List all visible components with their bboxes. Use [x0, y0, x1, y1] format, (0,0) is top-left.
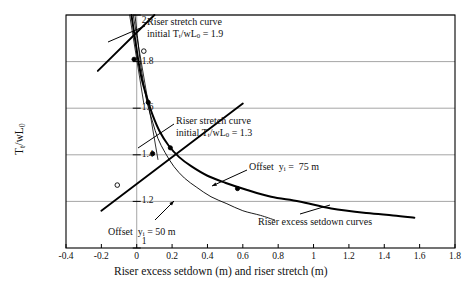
x-tick-label: 1.4 [375, 251, 393, 261]
annotation-setdown-curves: Riser excess setdown curves [258, 216, 372, 228]
x-tick-label: 0.8 [269, 251, 287, 261]
y-tick-label: 1.6 [142, 102, 154, 112]
data-marker [132, 57, 136, 61]
annotation-offset-75-text: Offset yi = 75 m [249, 161, 319, 172]
leader-line [108, 26, 145, 42]
data-marker [235, 186, 239, 190]
annotation-offset-75: Offset yi = 75 m [249, 161, 319, 175]
x-tick-label: 0.2 [163, 251, 181, 261]
plot-frame [66, 15, 455, 248]
annotation-stretch-19-line2: initial Tt/wL0 = 1.9 [147, 28, 223, 39]
data-marker [168, 146, 172, 150]
leader-line [300, 205, 330, 214]
x-tick-label: -0.4 [57, 251, 75, 261]
leader-arrowhead [212, 182, 217, 186]
y-tick-label: 1 [142, 236, 147, 246]
x-tick-label: 0.6 [234, 251, 252, 261]
y-tick-label: 2 [142, 15, 147, 25]
x-tick-label: -0.2 [92, 251, 110, 261]
figure-container: Tt/wL0 Riser excess setdown (m) and rise… [0, 0, 476, 289]
data-marker [142, 49, 147, 54]
annotation-stretch-13-line2: initial Tt/wL0 = 1.3 [176, 127, 252, 138]
data-series [98, 15, 415, 220]
x-tick-label: 1.2 [340, 251, 358, 261]
annotation-stretch-13: Riser stretch curve initial Tt/wL0 = 1.3 [176, 115, 252, 141]
x-tick-label: 1.8 [446, 251, 464, 261]
gridlines [66, 15, 455, 248]
chart-canvas [0, 0, 476, 289]
x-tick-label: 0.4 [198, 251, 216, 261]
series-path [131, 15, 414, 218]
annotation-stretch-19-line1: Riser stretch curve [147, 16, 222, 27]
tick-marks [66, 15, 455, 248]
x-tick-label: 0 [128, 251, 146, 261]
annotation-stretch-13-line1: Riser stretch curve [176, 115, 251, 126]
annotation-stretch-19: Riser stretch curve initial Tt/wL0 = 1.9 [147, 16, 223, 42]
x-tick-label: 1 [305, 251, 323, 261]
y-tick-label: 1.2 [142, 195, 154, 205]
y-tick-label: 1.4 [142, 149, 154, 159]
x-axis-title: Riser excess setdown (m) and riser stret… [114, 265, 328, 277]
y-tick-label: 1.8 [142, 56, 154, 66]
data-marker [115, 183, 120, 188]
x-tick-label: 1.6 [411, 251, 429, 261]
y-axis-title: Tt/wL0 [13, 123, 27, 155]
